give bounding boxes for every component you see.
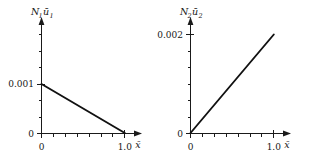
right-x-axis-arrowhead (283, 131, 291, 137)
figure-container: N 1 ū 1 0.001 0 0 1.0 x̄ (0, 0, 309, 160)
right-data-line (191, 35, 274, 134)
right-y-value-top: 0.002 (157, 30, 183, 40)
left-plot-svg: N 1 ū 1 0.001 0 0 1.0 x̄ (0, 0, 154, 160)
left-y-axis-label-u-sub: 1 (50, 12, 54, 20)
left-y-value-top: 0.001 (8, 79, 34, 89)
right-x-value-max: 1.0 (267, 142, 282, 152)
right-y-axis-label-N-sub: 2 (187, 12, 192, 20)
chart-panel-right: N 2 ū 2 0.002 0 0 1.0 x̄ (155, 0, 309, 160)
left-x-value-zero: 0 (39, 142, 45, 152)
right-x-axis-label: x̄ (284, 139, 290, 150)
left-x-axis-arrowhead (134, 131, 142, 137)
right-y-axis-label-u: ū (192, 6, 198, 17)
left-data-line (42, 84, 125, 133)
right-y-axis-label-u-sub: 2 (198, 12, 203, 20)
left-x-ticks (53, 134, 124, 138)
right-plot-svg: N 2 ū 2 0.002 0 0 1.0 x̄ (155, 0, 309, 160)
chart-panel-left: N 1 ū 1 0.001 0 0 1.0 x̄ (0, 0, 154, 160)
left-x-axis-label: x̄ (135, 139, 141, 150)
right-x-ticks (202, 134, 273, 138)
right-y-value-zero: 0 (177, 129, 183, 139)
left-y-value-zero: 0 (28, 129, 34, 139)
right-x-value-zero: 0 (188, 142, 194, 152)
left-y-axis-label-u: ū (43, 6, 49, 17)
left-x-value-max: 1.0 (118, 142, 133, 152)
